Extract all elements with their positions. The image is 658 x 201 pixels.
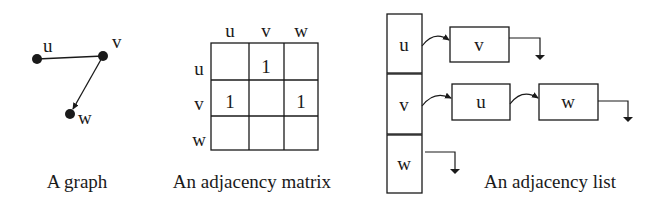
node-label-u: u xyxy=(43,35,53,56)
matrix-col-header-u: u xyxy=(225,20,235,41)
edge-u-v xyxy=(37,56,103,59)
adjacency-list-panel: u v w v u w An adjacency list xyxy=(387,14,633,193)
node-w xyxy=(65,109,75,119)
matrix-row-header-v: v xyxy=(194,93,204,114)
node-v xyxy=(98,51,108,61)
node-label-w: w xyxy=(78,107,92,128)
list-node-label: w xyxy=(561,91,575,112)
matrix-caption: An adjacency matrix xyxy=(173,171,332,192)
pointer-arrow-v-to-u xyxy=(422,95,451,106)
list-head-label-w: w xyxy=(397,153,411,174)
edge-v-w-arrow xyxy=(73,56,103,109)
null-ground-icon xyxy=(623,117,633,122)
list-node-label: u xyxy=(476,91,486,112)
null-pointer-icon xyxy=(598,101,628,117)
node-label-v: v xyxy=(112,31,122,52)
null-ground-icon xyxy=(535,55,545,60)
pointer-arrow-u-to-w xyxy=(510,94,538,104)
pointer-arrow-u-to-v xyxy=(422,36,449,46)
matrix-cell: 1 xyxy=(296,91,306,112)
graph-representations-diagram: u v w A graph u v w u v w 1 1 1 An adjac… xyxy=(0,0,658,201)
graph-panel: u v w A graph xyxy=(32,31,122,192)
matrix-col-header-w: w xyxy=(294,20,308,41)
null-ground-icon xyxy=(450,169,460,174)
list-head-label-v: v xyxy=(399,94,409,115)
adjacency-list-caption: An adjacency list xyxy=(484,171,617,192)
graph-caption: A graph xyxy=(47,171,108,192)
matrix-col-header-v: v xyxy=(261,20,271,41)
list-node-label: v xyxy=(474,34,484,55)
list-head-label-u: u xyxy=(399,34,409,55)
matrix-cell: 1 xyxy=(261,56,271,77)
matrix-panel: u v w u v w 1 1 1 An adjacency matrix xyxy=(173,20,332,192)
node-u xyxy=(32,54,42,64)
matrix-cell: 1 xyxy=(225,91,235,112)
matrix-row-header-u: u xyxy=(194,58,204,79)
null-pointer-icon xyxy=(425,152,455,169)
null-pointer-icon xyxy=(509,38,540,55)
matrix-row-header-w: w xyxy=(192,129,206,150)
